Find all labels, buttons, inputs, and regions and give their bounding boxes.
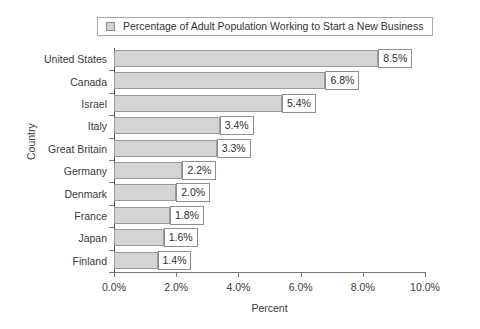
bar-row: 3.4%Italy (114, 115, 425, 137)
legend-label: Percentage of Adult Population Working t… (123, 21, 423, 32)
bar-value-label: 3.4% (220, 116, 254, 135)
y-axis-label: Great Britain (48, 144, 107, 155)
x-axis-label: 2.0% (164, 282, 188, 293)
bar[interactable] (114, 117, 220, 134)
bar[interactable] (114, 207, 170, 224)
bar[interactable] (114, 252, 158, 269)
bar-value-label: 2.0% (176, 183, 210, 202)
y-axis-label: Germany (64, 166, 107, 177)
chart-legend: Percentage of Adult Population Working t… (97, 17, 433, 36)
bar[interactable] (114, 95, 282, 112)
x-axis-tick (363, 272, 364, 277)
plot-area: 8.5%United States6.8%Canada5.4%Israel3.4… (114, 48, 425, 272)
bar-row: 1.8%France (114, 205, 425, 227)
y-axis-title: Country (26, 123, 37, 160)
bar-row: 1.4%Finland (114, 250, 425, 272)
x-axis-label: 10.0% (410, 282, 440, 293)
bar-row: 3.3%Great Britain (114, 138, 425, 160)
y-axis-label: Finland (73, 256, 107, 267)
x-axis-tick (114, 272, 115, 277)
bar-row: 6.8%Canada (114, 70, 425, 92)
bar-value-label: 1.6% (164, 228, 198, 247)
x-axis-label: 6.0% (289, 282, 313, 293)
bar[interactable] (114, 140, 217, 157)
bar[interactable] (114, 50, 378, 67)
legend-swatch-icon (106, 22, 115, 31)
y-axis-label: United States (44, 54, 107, 65)
bar-value-label: 1.8% (170, 206, 204, 225)
x-axis-label: 0.0% (102, 282, 126, 293)
bar-row: 1.6%Japan (114, 227, 425, 249)
bar-row: 2.0%Denmark (114, 182, 425, 204)
bar-value-label: 2.2% (182, 161, 216, 180)
x-axis-tick (301, 272, 302, 277)
y-axis-label: Italy (88, 121, 107, 132)
x-axis-label: 4.0% (226, 282, 250, 293)
x-axis-title: Percent (114, 303, 425, 314)
y-axis-label: Canada (70, 76, 107, 87)
x-axis-line (114, 272, 425, 273)
bar-row: 5.4%Israel (114, 93, 425, 115)
x-axis-tick (176, 272, 177, 277)
bar-value-label: 5.4% (282, 94, 316, 113)
bar[interactable] (114, 162, 182, 179)
bar-value-label: 8.5% (378, 49, 412, 68)
bar-row: 2.2%Germany (114, 160, 425, 182)
x-axis-label: 8.0% (351, 282, 375, 293)
bar-value-label: 6.8% (325, 71, 359, 90)
bar-value-label: 3.3% (217, 139, 251, 158)
x-axis-tick (238, 272, 239, 277)
y-axis-label: France (74, 211, 107, 222)
y-axis-label: Israel (81, 99, 107, 110)
bar-row: 8.5%United States (114, 48, 425, 70)
bar[interactable] (114, 184, 176, 201)
y-axis-label: Denmark (64, 188, 107, 199)
bar-value-label: 1.4% (158, 251, 192, 270)
y-axis-label: Japan (78, 233, 107, 244)
x-axis-tick (425, 272, 426, 277)
bar[interactable] (114, 229, 164, 246)
bar[interactable] (114, 72, 325, 89)
